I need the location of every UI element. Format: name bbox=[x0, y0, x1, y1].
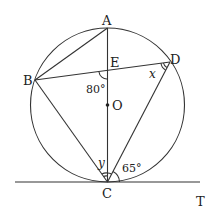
angle-label-65: 65° bbox=[122, 162, 142, 175]
geometry-diagram: A B D E O C T 80° x y 65° bbox=[0, 0, 221, 212]
angle-label-80: 80° bbox=[86, 83, 106, 96]
angle-arc-y-outer bbox=[102, 173, 108, 174]
angle-arc-65 bbox=[113, 172, 120, 183]
angle-label-y: y bbox=[97, 156, 105, 170]
angle-label-x: x bbox=[149, 67, 156, 81]
label-D: D bbox=[170, 52, 180, 67]
label-B: B bbox=[23, 73, 33, 88]
angle-arc-80 bbox=[99, 72, 108, 79]
angle-arc-x-inner bbox=[164, 63, 167, 68]
angle-arc-y-right bbox=[108, 173, 112, 174]
center-point bbox=[106, 103, 110, 107]
angle-arc-y-inner bbox=[104, 176, 108, 177]
label-A: A bbox=[101, 13, 112, 28]
label-O: O bbox=[112, 98, 123, 113]
label-T: T bbox=[196, 194, 205, 209]
label-E: E bbox=[110, 55, 120, 70]
label-C: C bbox=[102, 186, 112, 201]
